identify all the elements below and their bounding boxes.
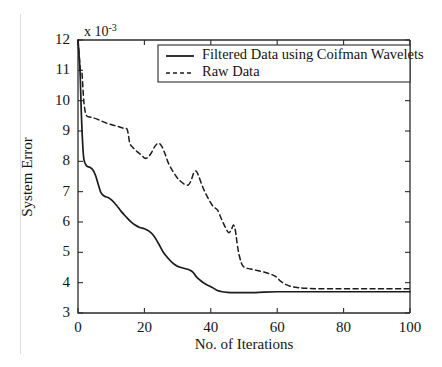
y-tick-label: 10 xyxy=(55,92,70,108)
y-tick-label: 4 xyxy=(63,274,71,290)
y-tick-label: 5 xyxy=(63,243,71,259)
line-chart: 3456789101112 020406080100 x 10-3 System… xyxy=(0,0,442,367)
legend-label-2: Raw Data xyxy=(202,63,260,79)
x-tick-label: 40 xyxy=(203,319,218,335)
y-tick-label: 6 xyxy=(63,213,71,229)
figure-container: 3456789101112 020406080100 x 10-3 System… xyxy=(0,0,442,367)
chart-legend: Filtered Data using Coifman WaveletsRaw … xyxy=(158,45,424,82)
x-tick-label: 100 xyxy=(399,319,422,335)
y-tick-label: 9 xyxy=(63,122,71,138)
x-tick-label: 60 xyxy=(270,319,285,335)
x-tick-label: 80 xyxy=(336,319,351,335)
y-tick-label: 3 xyxy=(63,304,71,320)
x-tick-label: 0 xyxy=(74,319,82,335)
legend-label-1: Filtered Data using Coifman Wavelets xyxy=(202,46,424,62)
y-tick-label: 12 xyxy=(55,31,70,47)
y-tick-label: 8 xyxy=(63,152,71,168)
y-axis-exponent-label: x 10-3 xyxy=(84,22,117,39)
y-axis-title: System Error xyxy=(19,137,35,217)
y-tick-label: 11 xyxy=(56,61,70,77)
y-tick-label: 7 xyxy=(63,183,71,199)
x-tick-label: 20 xyxy=(137,319,152,335)
x-axis-title: No. of Iterations xyxy=(195,336,294,352)
